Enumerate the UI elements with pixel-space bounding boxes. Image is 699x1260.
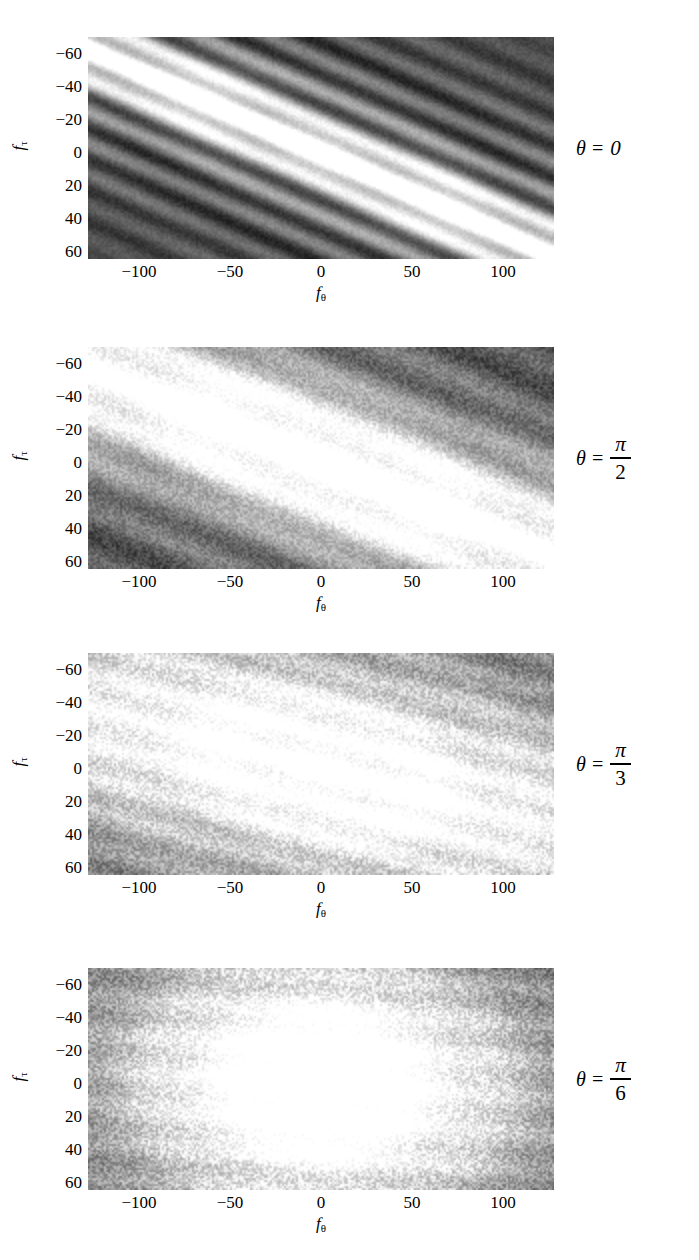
y-axis-label-base: f <box>9 1077 28 1082</box>
panel-theta-pi-over-2-plot-area <box>88 347 554 569</box>
y-tick-label: 0 <box>36 454 82 471</box>
y-tick-label: 0 <box>36 760 82 777</box>
fraction-bar <box>610 1078 631 1080</box>
y-tick-label: 60 <box>36 553 82 570</box>
y-tick-label: 20 <box>36 177 82 194</box>
fraction-bar <box>610 457 631 459</box>
theta-equals-label: θ = <box>576 1068 604 1091</box>
y-tick-label: 40 <box>36 210 82 227</box>
x-tick-label: −50 <box>200 262 260 282</box>
y-tick-label: −20 <box>36 1042 82 1059</box>
y-axis-ticks: −60−40−200204060 <box>34 653 82 875</box>
y-tick-label: −40 <box>36 1009 82 1026</box>
y-axis-label-base: f <box>9 146 28 151</box>
y-tick-label: −60 <box>36 355 82 372</box>
panel-theta-0-plot-area <box>88 37 554 259</box>
panel-theta-0-heatmap-image <box>88 37 554 259</box>
y-tick-label: −40 <box>36 694 82 711</box>
x-tick-label: 0 <box>291 1193 351 1213</box>
x-tick-label: 100 <box>473 572 533 592</box>
fraction-denominator: 6 <box>610 1082 631 1104</box>
y-axis-label-base: f <box>9 456 28 461</box>
panel-theta-pi-over-2-heatmap-image <box>88 347 554 569</box>
y-tick-label: 20 <box>36 793 82 810</box>
theta-equals-label: θ = <box>576 447 604 470</box>
theta-fraction: π2 <box>610 433 631 483</box>
x-tick-label: 100 <box>473 1193 533 1213</box>
x-tick-label: 50 <box>382 572 442 592</box>
x-axis-label: fθ <box>88 899 554 919</box>
y-tick-label: −20 <box>36 421 82 438</box>
x-axis-label: fθ <box>88 1214 554 1234</box>
fraction-denominator: 3 <box>610 767 631 789</box>
y-axis-label-subscript: τ <box>17 451 29 455</box>
fraction-numerator: π <box>610 739 631 761</box>
y-tick-label: 20 <box>36 1108 82 1125</box>
theta-fraction: π3 <box>610 739 631 789</box>
y-axis-label-subscript: τ <box>17 1072 29 1076</box>
x-tick-label: −100 <box>109 878 169 898</box>
x-tick-label: 0 <box>291 878 351 898</box>
y-axis-label: fτ <box>9 751 29 773</box>
x-axis-label: fθ <box>88 283 554 303</box>
fraction-bar <box>610 763 631 765</box>
y-axis-label-subscript: τ <box>17 141 29 145</box>
y-tick-label: −20 <box>36 727 82 744</box>
y-tick-label: 60 <box>36 1174 82 1191</box>
x-axis-label-subscript: θ <box>321 601 326 613</box>
x-axis-label-subscript: θ <box>321 291 326 303</box>
y-tick-label: −40 <box>36 388 82 405</box>
panel-theta-pi-over-3-theta-annotation: θ =π3 <box>576 742 696 786</box>
x-tick-label: −100 <box>109 572 169 592</box>
y-axis-label: fτ <box>9 1066 29 1088</box>
theta-value: 0 <box>610 136 621 161</box>
y-tick-label: 60 <box>36 859 82 876</box>
y-axis-label: fτ <box>9 135 29 157</box>
y-tick-label: 20 <box>36 487 82 504</box>
y-axis-ticks: −60−40−200204060 <box>34 968 82 1190</box>
x-tick-label: −100 <box>109 262 169 282</box>
fraction-denominator: 2 <box>610 461 631 483</box>
panel-theta-pi-over-2-theta-annotation: θ =π2 <box>576 436 696 480</box>
y-axis-label-base: f <box>9 762 28 767</box>
x-axis-label-subscript: θ <box>321 1222 326 1234</box>
theta-fraction: π6 <box>610 1054 631 1104</box>
y-axis-label-subscript: τ <box>17 757 29 761</box>
x-tick-label: −50 <box>200 878 260 898</box>
x-tick-label: 50 <box>382 878 442 898</box>
y-tick-label: −40 <box>36 78 82 95</box>
x-tick-label: −50 <box>200 1193 260 1213</box>
y-tick-label: 60 <box>36 243 82 260</box>
y-tick-label: 40 <box>36 826 82 843</box>
x-tick-label: 100 <box>473 262 533 282</box>
y-tick-label: −60 <box>36 661 82 678</box>
panel-theta-0-theta-annotation: θ =0 <box>576 126 696 170</box>
theta-equals-label: θ = <box>576 753 604 776</box>
x-tick-label: 0 <box>291 262 351 282</box>
y-axis-ticks: −60−40−200204060 <box>34 347 82 569</box>
x-axis-label: fθ <box>88 593 554 613</box>
panel-theta-pi-over-3-plot-area <box>88 653 554 875</box>
y-tick-label: −60 <box>36 976 82 993</box>
theta-equals-label: θ = <box>576 137 604 160</box>
x-tick-label: 50 <box>382 1193 442 1213</box>
y-tick-label: 40 <box>36 520 82 537</box>
panel-theta-pi-over-3-heatmap-image <box>88 653 554 875</box>
x-tick-label: 50 <box>382 262 442 282</box>
y-tick-label: −60 <box>36 45 82 62</box>
x-tick-label: −100 <box>109 1193 169 1213</box>
x-tick-label: 0 <box>291 572 351 592</box>
x-tick-label: 100 <box>473 878 533 898</box>
fraction-numerator: π <box>610 433 631 455</box>
y-tick-label: 40 <box>36 1141 82 1158</box>
x-tick-label: −50 <box>200 572 260 592</box>
y-tick-label: 0 <box>36 144 82 161</box>
x-axis-label-subscript: θ <box>321 907 326 919</box>
y-axis-label: fτ <box>9 445 29 467</box>
panel-theta-pi-over-6-plot-area <box>88 968 554 1190</box>
y-tick-label: 0 <box>36 1075 82 1092</box>
panel-theta-pi-over-6-theta-annotation: θ =π6 <box>576 1057 696 1101</box>
fraction-numerator: π <box>610 1054 631 1076</box>
panel-theta-pi-over-6-heatmap-image <box>88 968 554 1190</box>
y-axis-ticks: −60−40−200204060 <box>34 37 82 259</box>
